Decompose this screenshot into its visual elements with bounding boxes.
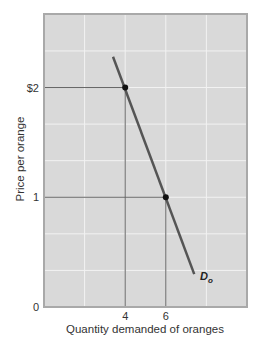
data-point-marker (163, 194, 169, 200)
x-axis-title: Quantity demanded of oranges (66, 323, 224, 335)
x-tick-label: 4 (122, 310, 128, 322)
x-axis-ticks: 46 (122, 310, 169, 322)
curve-label-main: D (200, 270, 208, 282)
curve-label-subscript: o (208, 276, 213, 285)
y-tick-label: 1 (33, 191, 39, 203)
y-axis-ticks: 01$2 (27, 82, 39, 313)
y-axis-title: Price per orange (14, 116, 26, 201)
demand-chart: 01$2 46 Price per orange Quantity demand… (0, 0, 261, 343)
x-tick-label: 6 (163, 310, 169, 322)
data-point-marker (122, 85, 128, 91)
y-tick-label: $2 (27, 82, 39, 94)
y-tick-label: 0 (33, 301, 39, 313)
